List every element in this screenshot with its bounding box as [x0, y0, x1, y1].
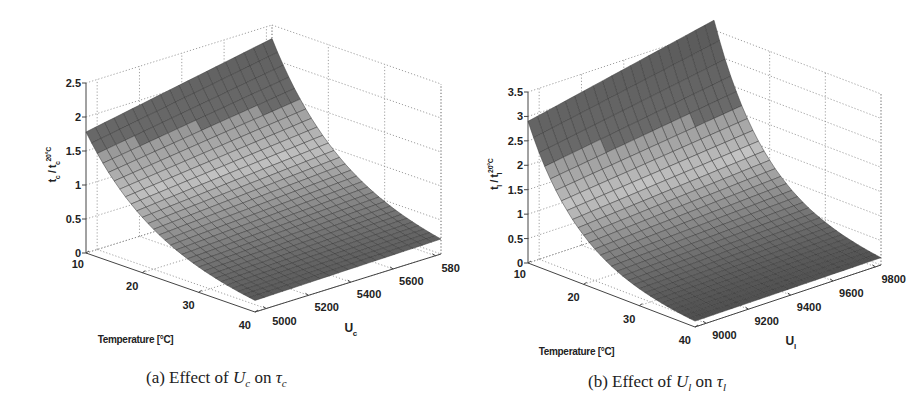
z-tick-label: 0.5 [66, 213, 81, 225]
temperature-tick-label: 30 [623, 313, 635, 325]
z-tick-label: 2 [75, 111, 81, 123]
u-tick-label: 9800 [881, 273, 905, 285]
u-tick-label: 9600 [839, 287, 863, 299]
u-tick-label: 9200 [754, 315, 778, 327]
u-tick-label: 9400 [797, 301, 821, 313]
z-tick-label: 2.5 [66, 77, 81, 89]
caption-mid: on [250, 368, 276, 387]
temperature-tick-label: 20 [567, 291, 579, 303]
z-tick-label: 3.5 [508, 86, 523, 98]
z-tick-label: 1 [517, 208, 523, 220]
z-tick-label: 1.5 [66, 145, 81, 157]
u-axis-label: Uc [344, 321, 357, 338]
u-tick-label: 5200 [314, 301, 338, 313]
caption-prefix: (a) Effect of [146, 368, 233, 387]
caption-b: (b) Effect of Ul on τl [588, 372, 726, 393]
surface-mesh [86, 39, 441, 301]
caption-a: (a) Effect of Uc on τc [146, 368, 287, 389]
z-tick-label: 2 [517, 159, 523, 171]
figure-panel-b: 00.511.522.533.5102030409000920094009600… [460, 0, 919, 414]
z-tick-label: 1 [75, 179, 81, 191]
z-axis-label: tc / tc20°C [45, 147, 61, 182]
temperature-axis-label: Temperature [°C] [539, 346, 615, 357]
temperature-axis-label: Temperature [°C] [98, 334, 174, 345]
temperature-tick-label: 10 [514, 268, 526, 280]
u-tick-label: 5000 [272, 315, 296, 327]
caption-mid: on [691, 372, 717, 391]
temperature-tick-label: 30 [182, 299, 194, 311]
surface-plot-b: 00.511.522.533.5102030409000920094009600… [460, 0, 919, 414]
z-tick-label: 0.5 [508, 233, 523, 245]
caption-target-subscript: l [723, 381, 726, 393]
surface-mesh [528, 20, 881, 321]
surface-plot-a: 00.511.522.51020304050005200540056005800… [0, 0, 460, 414]
z-axis-label: tl / tl20°C [487, 158, 503, 189]
temperature-tick-label: 10 [72, 258, 84, 270]
figure-panel-a: 00.511.522.51020304050005200540056005800… [0, 0, 460, 414]
u-tick-label: 5600 [399, 275, 423, 287]
caption-prefix: (b) Effect of [588, 372, 676, 391]
temperature-tick-label: 40 [239, 319, 251, 331]
z-tick-label: 1.5 [508, 184, 523, 196]
temperature-tick-label: 40 [679, 334, 691, 346]
caption-variable: U [233, 368, 245, 387]
u-tick-label: 5400 [357, 288, 381, 300]
caption-variable: U [676, 372, 688, 391]
u-axis-label: Ul [786, 334, 796, 351]
u-tick-label: 9000 [712, 329, 736, 341]
u-tick-label: 5800 [441, 262, 460, 274]
temperature-tick-label: 20 [126, 280, 138, 292]
z-tick-label: 2.5 [508, 135, 523, 147]
caption-target-subscript: c [282, 377, 287, 389]
z-tick-label: 3 [517, 110, 523, 122]
